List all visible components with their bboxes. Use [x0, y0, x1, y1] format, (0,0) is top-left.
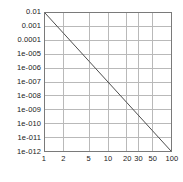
- x-axis-tick-labels: 12510203050100: [0, 155, 183, 169]
- x-tick-label: 2: [51, 155, 75, 163]
- y-tick-label: 0.01: [26, 8, 41, 16]
- y-tick-label: 1e-005: [17, 50, 41, 58]
- y-tick-label: 1e-006: [17, 64, 41, 72]
- y-tick-label: 1e-011: [18, 134, 41, 142]
- y-tick-label: 1e-009: [17, 106, 41, 114]
- plot-area: [44, 12, 172, 152]
- y-tick-label: 1e-010: [17, 120, 41, 128]
- y-tick-label: 1e-007: [17, 78, 41, 86]
- y-tick-label: 0.001: [22, 22, 41, 30]
- y-tick-label: 1e-008: [17, 92, 41, 100]
- data-series-line: [45, 13, 171, 151]
- x-tick-label: 100: [160, 155, 183, 163]
- chart-figure: 0.010.0010.00011e-0051e-0061e-0071e-0081…: [0, 0, 183, 182]
- y-tick-label: 0.0001: [17, 36, 41, 44]
